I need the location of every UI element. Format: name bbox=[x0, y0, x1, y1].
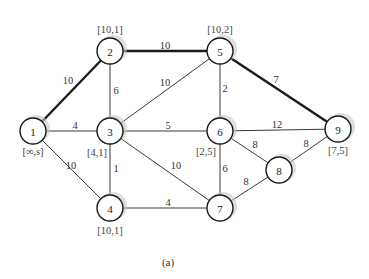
edge-weight-1-4: 10 bbox=[66, 160, 77, 171]
edge-weight-4-7: 4 bbox=[165, 197, 171, 208]
node-label: 3 bbox=[107, 126, 113, 138]
edge-weight-5-6: 2 bbox=[222, 83, 227, 94]
node-label: 7 bbox=[217, 203, 223, 215]
node-2: 2 bbox=[97, 35, 127, 64]
node-tag-2: [10,1] bbox=[97, 24, 122, 35]
node-tag-6: [2,5] bbox=[196, 146, 216, 157]
edge-weight-5-9: 7 bbox=[273, 74, 278, 85]
edge-5-9 bbox=[220, 51, 338, 129]
edge-weight-6-7: 6 bbox=[222, 163, 227, 174]
node-tag-4: [10,1] bbox=[97, 225, 122, 236]
network-graph: 10410610105110271268488 123456789 [∞,s][… bbox=[0, 0, 369, 279]
edge-weight-3-4: 1 bbox=[113, 163, 118, 174]
edge-weight-2-5: 10 bbox=[160, 40, 171, 51]
node-label: 8 bbox=[276, 165, 282, 177]
node-label: 2 bbox=[107, 46, 113, 58]
node-4: 4 bbox=[97, 192, 127, 221]
node-label: 9 bbox=[335, 124, 341, 136]
node-label: 4 bbox=[107, 203, 113, 215]
edge-weight-3-7: 10 bbox=[171, 160, 182, 171]
figure-caption: (a) bbox=[162, 256, 175, 269]
node-8: 8 bbox=[266, 154, 296, 183]
edges-layer bbox=[33, 51, 338, 208]
node-7: 7 bbox=[207, 192, 237, 221]
edge-weight-6-8: 8 bbox=[252, 139, 257, 150]
edge-weight-7-8: 8 bbox=[243, 176, 248, 187]
node-tag-9: [7,5] bbox=[328, 145, 348, 156]
edge-weight-3-5: 10 bbox=[160, 77, 171, 88]
node-label: 6 bbox=[217, 126, 223, 138]
edge-weight-8-9: 8 bbox=[303, 138, 308, 149]
node-1: 1 bbox=[20, 115, 50, 144]
node-tag-3: [4,1] bbox=[87, 147, 107, 158]
node-9: 9 bbox=[325, 113, 355, 142]
edge-weight-6-9: 12 bbox=[272, 119, 283, 130]
edge-weight-2-3: 6 bbox=[113, 85, 118, 96]
node-tag-5: [10,2] bbox=[207, 24, 232, 35]
nodes-layer: 123456789 bbox=[20, 35, 355, 221]
node-label: 1 bbox=[30, 126, 36, 138]
edge-weight-1-2: 10 bbox=[63, 75, 74, 86]
node-tag-1: [∞,s] bbox=[22, 146, 43, 157]
edge-weight-1-3: 4 bbox=[72, 120, 78, 131]
node-label: 5 bbox=[217, 46, 223, 58]
edge-weight-3-6: 5 bbox=[165, 120, 170, 131]
